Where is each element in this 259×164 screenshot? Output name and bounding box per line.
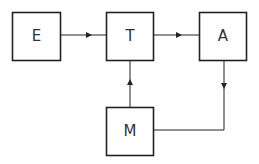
node-m-label: M	[124, 122, 137, 140]
node-e: E	[13, 13, 61, 61]
block-diagram: E T A M	[0, 0, 259, 164]
arrowhead-m-to-t	[127, 79, 133, 85]
arrowhead-t-to-a	[176, 32, 182, 38]
node-t-label: T	[124, 27, 135, 45]
node-a: A	[200, 13, 247, 61]
edge-a-to-m	[153, 61, 224, 130]
arrowhead-e-to-t	[86, 32, 92, 38]
node-a-label: A	[218, 27, 229, 45]
node-m: M	[107, 108, 154, 156]
node-e-label: E	[32, 27, 41, 45]
node-t: T	[107, 13, 154, 61]
arrowhead-a-to-m	[221, 83, 227, 89]
